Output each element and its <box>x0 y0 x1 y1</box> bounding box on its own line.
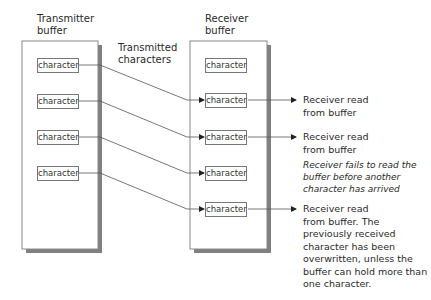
receiver-cell: character <box>205 202 247 217</box>
receiver-title-line1: Receiver <box>205 13 248 25</box>
receiver-title-line2: buffer <box>205 25 248 37</box>
receiver-cell: character <box>205 166 247 181</box>
receiver-title: Receiver buffer <box>205 13 248 37</box>
outcome-line: previously received <box>303 228 427 241</box>
transmitter-cell: character <box>37 94 79 109</box>
note-line: Receiver fails to read the <box>303 159 416 171</box>
link-label-line1: Transmitted <box>118 42 177 54</box>
transmitter-cell: character <box>37 166 79 181</box>
transmitter-title-line1: Transmitter <box>37 13 94 25</box>
receiver-cell: character <box>205 58 247 73</box>
failure-note: Receiver fails to read the buffer before… <box>303 159 416 195</box>
outcome-line: buffer can hold more than <box>303 266 427 279</box>
outcome-line: overwritten, unless the <box>303 253 427 266</box>
outcome-line: Receiver read <box>303 94 369 107</box>
transmitter-title: Transmitter buffer <box>37 13 94 37</box>
outcome-line: one character. <box>303 278 427 291</box>
outcome-1: Receiver read from buffer <box>303 94 369 119</box>
transmitter-cell: character <box>37 58 79 73</box>
receiver-cell: character <box>205 93 247 108</box>
outcome-3: Receiver read from buffer. The previousl… <box>303 203 427 291</box>
outcome-2: Receiver read from buffer <box>303 131 369 156</box>
transmitted-characters-label: Transmitted characters <box>118 42 177 66</box>
transmitter-cell: character <box>37 130 79 145</box>
receiver-cell: character <box>205 130 247 145</box>
outcome-line: from buffer <box>303 144 369 157</box>
note-line: buffer before another <box>303 171 416 183</box>
outcome-line: Receiver read <box>303 131 369 144</box>
outcome-line: from buffer. The <box>303 216 427 229</box>
link-label-line2: characters <box>118 54 177 66</box>
outcome-line: character has been <box>303 241 427 254</box>
note-line: character has arrived <box>303 183 416 195</box>
outcome-line: from buffer <box>303 107 369 120</box>
transmitter-title-line2: buffer <box>37 25 94 37</box>
outcome-line: Receiver read <box>303 203 427 216</box>
